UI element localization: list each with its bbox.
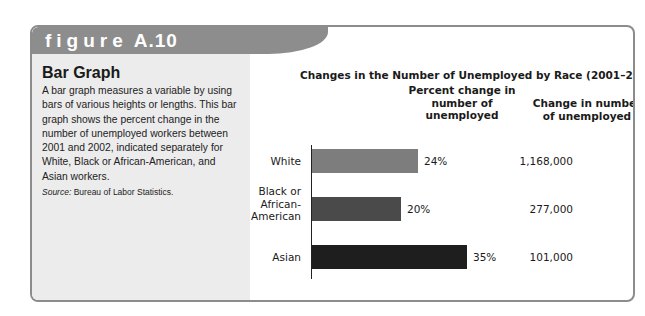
source-label: Source: xyxy=(42,187,71,197)
category-label-black: Black or African- American xyxy=(251,185,301,223)
percent-label-black: 20% xyxy=(407,203,430,215)
source-text: Bureau of Labor Statistics. xyxy=(74,187,174,197)
sidebar-source: Source: Bureau of Labor Statistics. xyxy=(42,187,242,197)
figure-banner: figureA.10 xyxy=(32,27,328,54)
figure-card: Bar Graph A bar graph measures a variabl… xyxy=(30,25,635,302)
percent-label-white: 24% xyxy=(424,155,447,167)
number-label-white: 1,168,000 xyxy=(520,155,573,167)
number-label-asian: 101,000 xyxy=(530,251,573,263)
category-label-white: White xyxy=(270,155,301,168)
bar-asian xyxy=(312,245,467,269)
percent-label-asian: 35% xyxy=(473,251,496,263)
figure-number: A.10 xyxy=(134,30,178,51)
figure-word: figure xyxy=(45,30,128,51)
number-label-black: 277,000 xyxy=(530,203,573,215)
figure-label: figureA.10 xyxy=(45,30,178,52)
category-line: American xyxy=(251,210,301,223)
category-line: African- xyxy=(251,198,301,211)
percent-column-header: Percent change in number of unemployed xyxy=(402,84,522,122)
chart-title: Changes in the Number of Unemployed by R… xyxy=(300,69,635,81)
category-label-asian: Asian xyxy=(272,251,301,264)
category-line: Black or xyxy=(251,185,301,198)
sidebar-description: A bar graph measures a variable by using… xyxy=(42,84,242,184)
number-column-header: Change in number of unemployed xyxy=(527,97,635,122)
sidebar-title: Bar Graph xyxy=(42,64,120,82)
bar-white xyxy=(312,149,418,173)
sidebar-panel: Bar Graph A bar graph measures a variabl… xyxy=(32,27,250,300)
bar-black xyxy=(312,197,401,221)
